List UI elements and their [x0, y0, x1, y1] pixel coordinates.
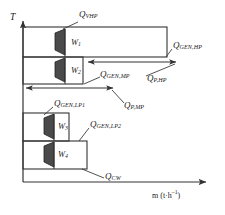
lp1-lp2-header-box — [23, 141, 87, 169]
turbine-shape-w1 — [55, 29, 65, 55]
turbine-shape-w3 — [44, 114, 54, 139]
q-p-hp-sub: P,HP — [154, 77, 167, 83]
x-axis-label: m (t·h–1) — [152, 190, 180, 200]
w1-sub: 1 — [78, 41, 81, 47]
q-gen-hp-sub: GEN,HP — [180, 44, 203, 50]
q-vhp-label: QVHP — [79, 10, 98, 19]
turbine-shape-w4 — [44, 142, 54, 167]
q-cw-sub: CW — [112, 175, 121, 181]
leader-q-gen-lp2 — [79, 128, 89, 141]
q-gen-lp2-label: QGEN,LP2 — [90, 120, 121, 129]
w4-sub: 4 — [65, 153, 68, 159]
diagram-canvas — [0, 0, 225, 215]
leader-q-cw — [82, 169, 104, 178]
turbine-label-w2: W2 — [71, 66, 81, 75]
x-axis-label-suffix: ) — [178, 191, 181, 200]
turbine-shape-w2 — [55, 58, 65, 82]
q-gen-mp-base: Q — [100, 69, 107, 79]
turbine-label-w3: W3 — [58, 122, 68, 131]
leader-q-vhp — [63, 22, 78, 29]
q-vhp-base: Q — [79, 9, 86, 19]
leader-q-gen-mp — [84, 77, 100, 84]
q-p-hp-label: QP,HP — [147, 74, 167, 83]
q-gen-lp1-base: Q — [54, 98, 61, 108]
vhp-hp-header-box — [23, 27, 167, 57]
q-gen-hp-base: Q — [173, 40, 180, 50]
steam-turbine-t-m-diagram: T m (t·h–1) QVHP QGEN,HP QGEN,MP QP,HP Q… — [0, 0, 225, 215]
q-p-mp-sub: P,MP — [131, 104, 145, 110]
q-cw-label: QCW — [105, 172, 121, 181]
turbine-label-w1: W1 — [71, 38, 81, 47]
q-vhp-sub: VHP — [86, 13, 98, 19]
q-p-mp-base: Q — [124, 100, 131, 110]
q-cw-base: Q — [105, 171, 112, 181]
leader-q-gen-lp1 — [44, 107, 53, 115]
q-gen-lp2-base: Q — [90, 119, 97, 129]
q-gen-hp-label: QGEN,HP — [173, 41, 202, 50]
q-gen-lp1-label: QGEN,LP1 — [54, 99, 85, 108]
q-p-mp-label: QP,MP — [124, 101, 144, 110]
leader-q-p-mp — [112, 90, 124, 103]
q-gen-lp2-sub: GEN,LP2 — [97, 123, 122, 129]
q-p-hp-base: Q — [147, 73, 154, 83]
q-gen-mp-label: QGEN,MP — [100, 70, 130, 79]
q-gen-mp-sub: GEN,MP — [107, 73, 130, 79]
w2-sub: 2 — [78, 69, 81, 75]
w3-sub: 3 — [65, 125, 68, 131]
x-axis-label-prefix: m (t — [152, 191, 165, 200]
q-gen-lp1-sub: GEN,LP1 — [61, 102, 86, 108]
y-axis-label: T — [10, 13, 15, 23]
turbine-label-w4: W4 — [58, 150, 68, 159]
